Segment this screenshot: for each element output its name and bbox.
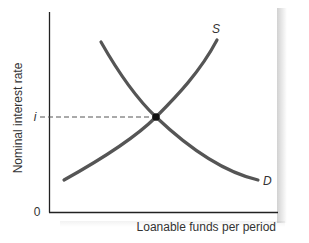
demand-label: D bbox=[263, 174, 272, 188]
origin-label: 0 bbox=[34, 205, 41, 219]
supply-curve bbox=[64, 40, 217, 180]
x-axis-label: Loanable funds per period bbox=[137, 220, 276, 234]
equilibrium-rate-label: i bbox=[34, 110, 37, 124]
chart-page: S D i 0 Loanable funds per period Nomina… bbox=[0, 0, 309, 243]
loanable-funds-chart: S D i 0 Loanable funds per period Nomina… bbox=[0, 0, 309, 243]
supply-label: S bbox=[212, 22, 220, 36]
demand-curve bbox=[101, 42, 258, 180]
y-axis-label: Nominal interest rate bbox=[11, 62, 25, 173]
equilibrium-point bbox=[152, 113, 160, 121]
